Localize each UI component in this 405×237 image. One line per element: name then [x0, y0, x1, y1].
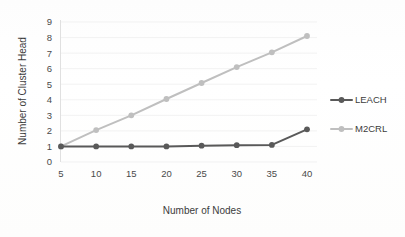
y-tick-label: 7: [47, 48, 52, 59]
y-tick-label: 0: [47, 156, 52, 167]
y-tick-label: 3: [47, 110, 52, 121]
legend-label: M2CRL: [355, 123, 387, 134]
data-point: [164, 144, 170, 150]
chart-container: 0123456789 510152025303540 Number of Nod…: [0, 0, 405, 237]
y-tick-label: 4: [47, 94, 52, 105]
legend-swatch-marker: [339, 126, 345, 132]
x-tick-label: 5: [58, 168, 63, 179]
x-tick-label: 30: [231, 168, 242, 179]
legend-label: LEACH: [355, 94, 387, 105]
x-tick-labels-group: 510152025303540: [58, 168, 312, 179]
x-tick-label: 10: [91, 168, 102, 179]
data-point: [93, 127, 99, 133]
legend-swatch-marker: [339, 97, 345, 103]
x-axis-title: Number of Nodes: [163, 205, 241, 216]
y-tick-label: 5: [47, 79, 52, 90]
y-tick-label: 8: [47, 32, 52, 43]
y-tick-label: 9: [47, 16, 52, 27]
y-tick-labels-group: 0123456789: [47, 16, 52, 167]
data-point: [128, 144, 134, 150]
x-tick-label: 15: [126, 168, 137, 179]
legend: LEACHM2CRL: [331, 94, 387, 134]
x-tick-label: 25: [196, 168, 207, 179]
data-point: [304, 126, 310, 132]
y-tick-label: 1: [47, 141, 52, 152]
data-point: [199, 143, 205, 149]
data-point: [164, 96, 170, 102]
y-tick-label: 6: [47, 63, 52, 74]
data-point: [128, 112, 134, 118]
line-chart-canvas: 0123456789 510152025303540 Number of Nod…: [0, 0, 405, 237]
data-point: [93, 144, 99, 150]
data-point: [58, 144, 64, 150]
series-m2crl: [58, 33, 310, 149]
data-point: [269, 49, 275, 55]
y-tick-label: 2: [47, 125, 52, 136]
data-point: [199, 80, 205, 86]
data-point: [234, 142, 240, 148]
data-point: [269, 142, 275, 148]
x-tick-label: 40: [302, 168, 313, 179]
data-point: [304, 33, 310, 39]
x-tick-label: 35: [267, 168, 278, 179]
data-point: [234, 64, 240, 70]
series-group: [58, 33, 310, 149]
y-axis-title: Number of Cluster Head: [17, 37, 28, 145]
x-tick-label: 20: [161, 168, 172, 179]
